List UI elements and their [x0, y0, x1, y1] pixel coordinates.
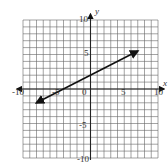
- x-tick-5: 5: [121, 87, 126, 97]
- x-axis-label: x: [162, 78, 167, 88]
- y-tick-10: 10: [79, 14, 89, 24]
- x-tick-neg10: -10: [12, 87, 24, 97]
- x-tick-neg5: -5: [52, 87, 60, 97]
- coordinate-plane: -10 -5 0 5 10 10 5 -5 -10 y x: [0, 0, 168, 162]
- y-tick-neg5: -5: [79, 120, 87, 130]
- y-axis-label: y: [94, 6, 99, 16]
- axes: [17, 14, 164, 160]
- x-tick-10: 10: [154, 87, 164, 97]
- y-tick-neg10: -10: [77, 154, 89, 162]
- x-tick-0: 0: [82, 87, 87, 97]
- y-tick-5: 5: [84, 48, 89, 58]
